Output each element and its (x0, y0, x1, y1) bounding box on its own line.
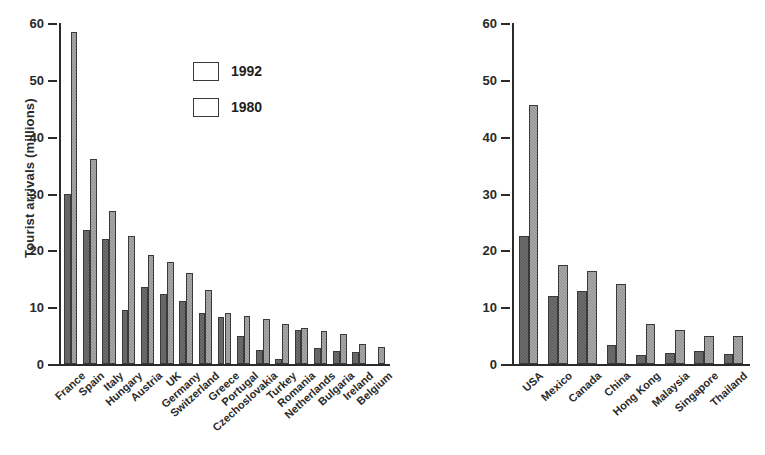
bar-americas-asia-hong-kong-1992 (646, 324, 656, 364)
y-tick-label-50: 50 (464, 74, 497, 87)
bar-americas-asia-thailand-1992 (733, 336, 743, 364)
bar-americas-asia-mexico-1992 (558, 265, 568, 364)
legend-label-1980: 1980 (231, 99, 262, 116)
bar-americas-asia-mexico-1980 (548, 296, 558, 364)
bar-americas-asia-singapore-1980 (694, 351, 704, 364)
bar-americas-asia-china-1980 (607, 345, 617, 364)
bar-americas-asia-canada-1980 (577, 291, 587, 364)
y-tick-label-30: 30 (464, 188, 497, 201)
figure-canvas: 0102030405060FranceSpainItalyHungaryAust… (0, 0, 765, 455)
bar-americas-asia-malaysia-1992 (675, 330, 685, 364)
y-tick-40 (501, 137, 510, 139)
bar-americas-asia-hong-kong-1980 (636, 355, 646, 364)
bar-americas-asia-thailand-1980 (724, 354, 734, 364)
bar-americas-asia-usa-1992 (529, 105, 539, 364)
y-tick-20 (501, 250, 510, 252)
y-tick-label-60: 60 (464, 17, 497, 30)
y-tick-label-0: 0 (464, 358, 497, 371)
y-axis-title: Tourist arrivals (millions) (22, 98, 37, 258)
y-tick-50 (501, 80, 510, 82)
legend-swatch-1992 (193, 62, 219, 81)
plot-area-americas-asia (514, 23, 748, 364)
bar-americas-asia-singapore-1992 (704, 336, 714, 364)
legend-swatch-1980 (193, 98, 219, 117)
chart-panel-americas-asia: 0102030405060USAMexicoCanadaChinaHong Ko… (0, 0, 765, 455)
x-axis-line (501, 364, 750, 366)
bar-americas-asia-china-1992 (616, 284, 626, 364)
y-tick-10 (501, 307, 510, 309)
bar-americas-asia-malaysia-1980 (665, 353, 675, 364)
y-tick-0 (501, 364, 510, 366)
y-tick-30 (501, 194, 510, 196)
y-tick-label-20: 20 (464, 244, 497, 257)
y-tick-60 (501, 23, 510, 25)
bar-americas-asia-canada-1992 (587, 271, 597, 364)
bar-americas-asia-usa-1980 (519, 236, 529, 364)
y-tick-label-10: 10 (464, 301, 497, 314)
y-tick-label-40: 40 (464, 131, 497, 144)
legend-label-1992: 1992 (231, 63, 262, 80)
